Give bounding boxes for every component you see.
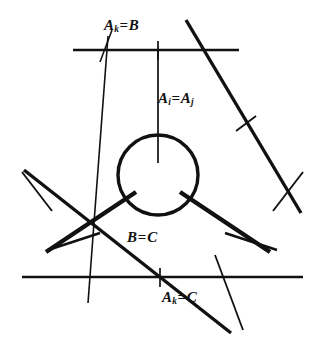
label-b-equals-c: B=C	[127, 230, 157, 245]
label-ak-c-rhs: C	[187, 289, 197, 305]
label-ak-b-base: A	[104, 17, 114, 33]
label-ai-aj-rhs-sub: j	[191, 97, 194, 107]
label-ak-b-rhs: B	[129, 17, 139, 33]
label-ai-aj-relation: =	[171, 90, 181, 106]
label-ai-aj-rhs: A	[181, 90, 191, 106]
figure-canvas: Ak=B Ai=Aj B=C Ak=C	[0, 0, 326, 341]
label-b-c-lhs: B	[127, 229, 137, 245]
label-ak-equals-b: Ak=B	[104, 18, 139, 35]
label-b-c-relation: =	[137, 229, 147, 245]
label-ak-c-base: A	[162, 289, 172, 305]
label-ak-b-relation: =	[119, 17, 129, 33]
label-ak-equals-c: Ak=C	[162, 290, 197, 307]
label-ak-c-relation: =	[177, 289, 187, 305]
label-b-c-rhs: C	[147, 229, 157, 245]
label-ai-equals-aj: Ai=Aj	[158, 91, 194, 108]
label-ai-aj-base: A	[158, 90, 168, 106]
